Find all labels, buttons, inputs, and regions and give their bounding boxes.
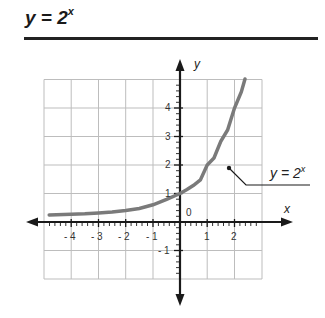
graph: y = 2x y x 0 - 4 - 3 - 2 - 1 1 2 4 3 2 1…: [0, 0, 325, 318]
annotation-label: y = 2x: [269, 164, 306, 181]
x-tick-label: 1: [204, 231, 210, 242]
y-axis-down-arrow-icon: [176, 294, 185, 306]
x-tick-label: - 1: [146, 231, 158, 242]
y-tick-label: 1: [165, 188, 171, 199]
grid: [44, 80, 262, 280]
x-axis-label: x: [283, 202, 291, 216]
x-tick-label: - 4: [64, 231, 76, 242]
y-axis-up-arrow-icon: [176, 59, 185, 71]
y-tick-label: 4: [165, 102, 171, 113]
exponential-curve: [49, 79, 245, 215]
y-tick-label: 3: [165, 131, 171, 142]
axes: [26, 59, 293, 306]
x-tick-label: - 3: [91, 231, 103, 242]
y-axis-label: y: [193, 57, 201, 71]
x-tick-label: 2: [231, 231, 237, 242]
y-tick-label: 2: [165, 159, 171, 170]
origin-label: 0: [186, 207, 192, 218]
x-tick-label: - 2: [118, 231, 130, 242]
x-axis-right-arrow-icon: [281, 218, 293, 227]
x-axis-left-arrow-icon: [26, 218, 38, 227]
y-tick-label: - 1: [158, 245, 170, 256]
